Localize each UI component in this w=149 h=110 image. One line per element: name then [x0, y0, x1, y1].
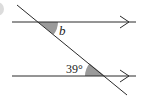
cropped-badge-icon [0, 2, 4, 16]
transversal-line [17, 5, 127, 95]
angle-39-label: 39° [66, 62, 83, 76]
angle-b-label: b [59, 23, 66, 38]
angle-b-shade [38, 22, 58, 35]
parallel-lines-diagram: b 39° [0, 0, 149, 110]
